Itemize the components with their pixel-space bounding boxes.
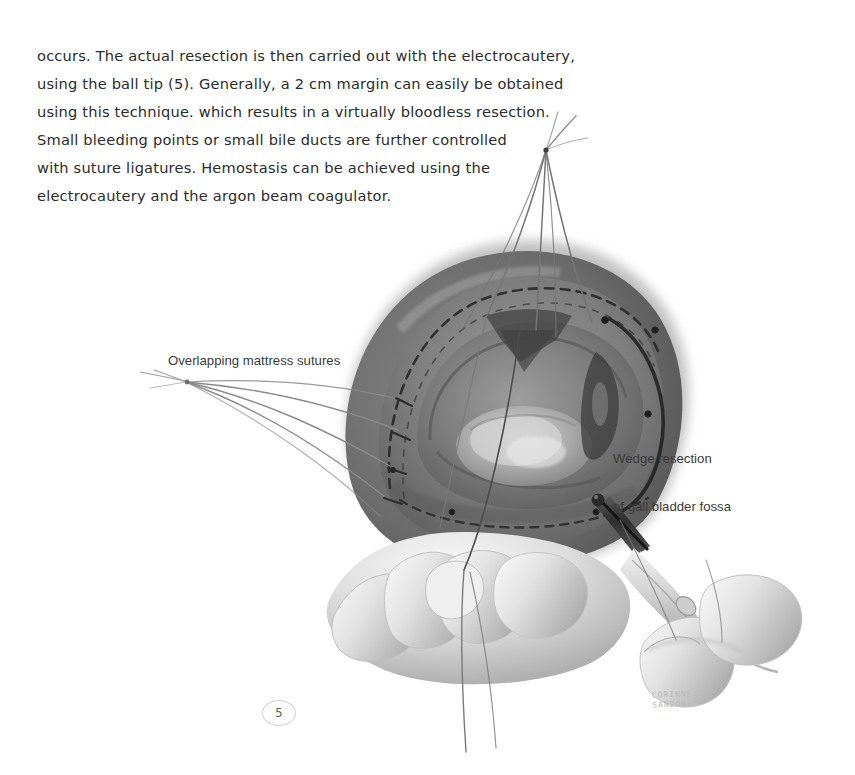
body-line: occurs. The actual resection is then car…	[37, 42, 557, 70]
gloved-hands	[327, 532, 802, 707]
page-number-value: 5	[275, 706, 282, 720]
callout-label-line1: Wedge resection	[613, 451, 731, 467]
callout-label-line2: of gall bladder fossa	[613, 499, 731, 515]
body-line: electrocautery and the argon beam coagul…	[37, 182, 557, 210]
callout-label-wedge-resection: Wedge resection of gall bladder fossa	[613, 419, 731, 531]
artist-signature: CORINNE SANDONE	[652, 689, 693, 710]
body-line: using this technique. which results in a…	[37, 98, 557, 126]
body-line: using the ball tip (5). Generally, a 2 c…	[37, 70, 557, 98]
page-number-badge: 5	[262, 700, 296, 726]
body-paragraph: occurs. The actual resection is then car…	[37, 42, 557, 210]
callout-label-overlapping-mattress-sutures: Overlapping mattress sutures	[168, 353, 340, 369]
body-line: with suture ligatures. Hemostasis can be…	[37, 154, 557, 182]
body-line: Small bleeding points or small bile duct…	[37, 126, 557, 154]
